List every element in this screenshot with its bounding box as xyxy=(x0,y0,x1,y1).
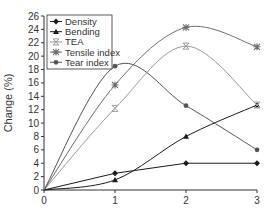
x-axis: 0123 xyxy=(41,190,260,206)
y-axis-label: Change (%) xyxy=(2,74,14,133)
circle-marker-icon xyxy=(255,147,260,152)
diamond-marker-icon xyxy=(112,170,118,176)
diamond-marker-icon xyxy=(254,160,260,166)
asterisk-marker-icon xyxy=(112,81,119,88)
x-tick-label: 1 xyxy=(112,195,118,206)
series-line xyxy=(44,63,257,190)
y-tick-label: 0 xyxy=(33,185,39,196)
x-tick-label: 2 xyxy=(183,195,189,206)
y-tick-label: 10 xyxy=(28,118,40,129)
x-tick-label: 0 xyxy=(41,195,47,206)
series-tear-index xyxy=(44,63,259,190)
circle-marker-icon xyxy=(184,103,189,108)
y-tick-label: 26 xyxy=(28,11,40,22)
legend-label: Tear index xyxy=(65,57,109,68)
y-tick-label: 14 xyxy=(28,91,40,102)
asterisk-marker-icon xyxy=(254,43,261,50)
line-chart: 02468101214161820222426 0123 Change (%) … xyxy=(0,0,270,217)
y-tick-label: 4 xyxy=(33,158,39,169)
y-tick-label: 24 xyxy=(28,24,40,35)
triangle-marker-icon xyxy=(183,133,189,138)
y-tick-label: 16 xyxy=(28,77,40,88)
y-tick-label: 20 xyxy=(28,51,40,62)
series-bending xyxy=(44,102,260,190)
series-line xyxy=(44,105,257,190)
circle-marker-icon xyxy=(113,64,118,69)
y-tick-label: 8 xyxy=(33,131,39,142)
x-bar-marker-icon xyxy=(112,105,118,111)
series-line xyxy=(44,163,257,190)
y-tick-label: 12 xyxy=(28,104,40,115)
y-tick-label: 22 xyxy=(28,37,40,48)
asterisk-marker-icon xyxy=(183,24,190,31)
y-axis: 02468101214161820222426 xyxy=(28,11,44,196)
y-tick-label: 18 xyxy=(28,64,40,75)
diamond-marker-icon xyxy=(183,160,189,166)
legend: DensityBendingTEATensile indexTear index xyxy=(47,15,120,69)
y-tick-label: 6 xyxy=(33,144,39,155)
series-density xyxy=(44,160,260,190)
asterisk-marker-icon xyxy=(53,49,60,56)
y-tick-label: 2 xyxy=(33,171,39,182)
x-tick-label: 3 xyxy=(254,195,260,206)
circle-marker-icon xyxy=(54,60,59,65)
